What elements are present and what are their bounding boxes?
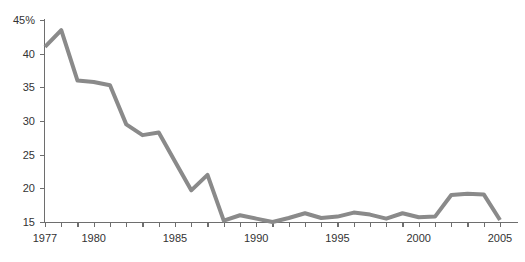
y-tick-label-40: 40 bbox=[23, 48, 35, 60]
plot-area: 15202530354045% 197719801985199019952000… bbox=[0, 0, 525, 262]
x-tick-label-1985: 1985 bbox=[163, 232, 187, 244]
y-tick-label-15: 15 bbox=[23, 216, 35, 228]
line-chart: 15202530354045% 197719801985199019952000… bbox=[0, 0, 525, 262]
y-tick-labels: 15202530354045% bbox=[13, 14, 35, 228]
y-tick-label-25: 25 bbox=[23, 149, 35, 161]
x-tick-label-1990: 1990 bbox=[244, 232, 268, 244]
y-tick-label-20: 20 bbox=[23, 182, 35, 194]
y-tick-label-45: 45% bbox=[13, 14, 35, 26]
y-tick-label-35: 35 bbox=[23, 81, 35, 93]
x-tick-labels: 1977198019851990199520002005 bbox=[33, 232, 512, 244]
y-tick-label-30: 30 bbox=[23, 115, 35, 127]
x-tick-label-1980: 1980 bbox=[82, 232, 106, 244]
data-series-line bbox=[45, 30, 500, 222]
x-tick-label-2005: 2005 bbox=[488, 232, 512, 244]
x-tick-label-1977: 1977 bbox=[33, 232, 57, 244]
x-tick-label-2000: 2000 bbox=[407, 232, 431, 244]
x-tick-label-1995: 1995 bbox=[325, 232, 349, 244]
